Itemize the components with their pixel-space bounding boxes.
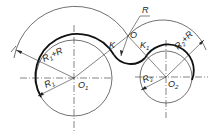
label-o2: O2 (168, 79, 179, 90)
label-r2-plus-r: R2+R (172, 29, 195, 52)
line-o2-o (128, 36, 166, 77)
label-k: K (109, 40, 116, 50)
tangent-arc-r (114, 55, 145, 64)
label-r1-plus-r: R1+R (40, 45, 65, 65)
line-o1-o (74, 36, 128, 78)
label-r: R (142, 5, 149, 15)
label-r1: R1 (42, 76, 56, 90)
drawing-canvas: R O K K1 R1+R R1 O1 R2+R R2 O2 (0, 0, 214, 137)
label-o1: O1 (78, 80, 88, 91)
label-k1: K1 (140, 40, 149, 51)
label-r2: R2 (140, 71, 154, 85)
technical-drawing: R O K K1 R1+R R1 O1 R2+R R2 O2 (0, 0, 214, 137)
label-o: O (130, 30, 137, 40)
